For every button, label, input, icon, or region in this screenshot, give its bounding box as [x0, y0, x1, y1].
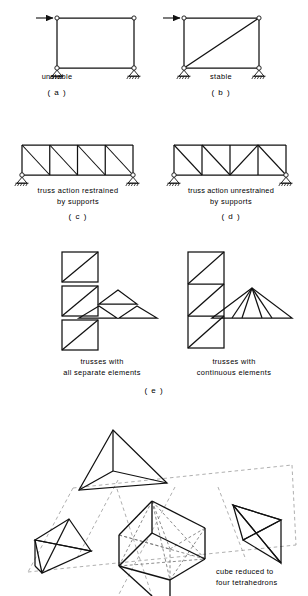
tetra-caption-line1: cube reduced to — [216, 567, 308, 578]
panel-e-right-caption-line2: continuous elements — [168, 368, 300, 378]
panel-e-left-caption-line1: trusses with — [32, 357, 172, 367]
panel-e-left-caption-line2: all separate elements — [32, 368, 172, 378]
panel-b-caption: stable — [196, 72, 246, 82]
top-tetrahedron — [79, 430, 167, 490]
panel-d-letter: ( d ) — [157, 212, 305, 221]
panel-b-letter: ( b ) — [196, 88, 246, 97]
panel-d-truss — [174, 145, 286, 175]
panel-b-diagonal-brace — [184, 18, 259, 68]
panel-e-right-caption-line1: trusses with — [168, 357, 300, 367]
panel-a-frame — [57, 18, 134, 68]
panel-c-caption-line2: by supports — [5, 197, 151, 207]
panel-d-caption-line1: truss action unrestrained — [157, 186, 305, 196]
right-tetrahedron — [233, 505, 281, 563]
panel-c-letter: ( c ) — [5, 212, 151, 221]
panel-e-left-stack — [62, 252, 98, 350]
panel-a-letter: ( a ) — [32, 88, 82, 97]
panel-c-caption-line1: truss action restrained — [5, 186, 151, 196]
center-cube-internal-diagonals — [119, 501, 205, 580]
panel-e-right-stack — [188, 252, 224, 348]
tetra-caption-line2: four tetrahedrons — [216, 578, 308, 589]
panel-d-caption-line2: by supports — [157, 197, 305, 207]
panel-e-letter: ( e ) — [104, 386, 204, 395]
panel-a-caption: unstable — [32, 72, 82, 82]
figure-root: unstable ( a ) stable ( b ) truss action… — [0, 0, 308, 596]
center-cube — [119, 501, 205, 596]
panel-e-left-roof-truss — [79, 290, 157, 318]
panel-c-truss — [22, 145, 133, 175]
left-tetrahedron — [35, 519, 91, 573]
